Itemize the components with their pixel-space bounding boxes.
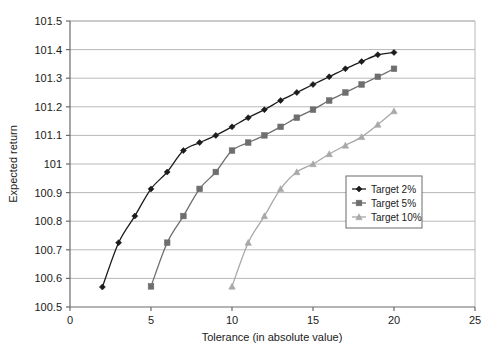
data-point-marker xyxy=(229,148,235,154)
x-axis-tick-label: 5 xyxy=(148,314,154,326)
y-axis-tick-label: 101 xyxy=(44,158,62,170)
y-axis-tick-label: 100.6 xyxy=(34,272,62,284)
data-point-marker xyxy=(391,66,397,72)
chart-container: 100.5100.6100.7100.8100.9101101.1101.210… xyxy=(0,0,502,358)
y-axis-tick-label: 100.8 xyxy=(34,215,62,227)
data-point-marker xyxy=(294,115,300,121)
y-axis-tick-label: 100.9 xyxy=(34,187,62,199)
legend-item-label: Target 2% xyxy=(371,184,416,195)
data-point-marker xyxy=(343,90,349,96)
legend-item-label: Target 5% xyxy=(371,198,416,209)
data-point-marker xyxy=(326,98,332,104)
y-axis-title: Expected return xyxy=(7,125,19,203)
y-axis-tick-label: 100.5 xyxy=(34,301,62,313)
chart-legend: Target 2%Target 5%Target 10% xyxy=(346,176,422,228)
data-point-marker xyxy=(245,140,251,146)
y-axis-tick-label: 101.2 xyxy=(34,101,62,113)
y-axis-tick-label: 101.4 xyxy=(34,44,62,56)
x-axis-tick-label: 10 xyxy=(226,314,238,326)
y-axis-tick-label: 101.3 xyxy=(34,72,62,84)
data-point-marker xyxy=(356,200,362,206)
x-axis-tick-label: 0 xyxy=(67,314,73,326)
data-point-marker xyxy=(359,82,365,88)
x-axis-title: Tolerance (in absolute value) xyxy=(202,331,343,343)
x-axis-tick-label: 20 xyxy=(388,314,400,326)
x-axis-tick-label: 15 xyxy=(307,314,319,326)
data-point-marker xyxy=(164,240,170,246)
y-axis-tick-label: 101.1 xyxy=(34,129,62,141)
data-point-marker xyxy=(148,284,154,290)
plot-background xyxy=(0,0,502,358)
data-point-marker xyxy=(197,186,203,192)
legend-item-label: Target 10% xyxy=(371,212,422,223)
expected-return-line-chart: 100.5100.6100.7100.8100.9101101.1101.210… xyxy=(0,0,502,358)
data-point-marker xyxy=(181,213,187,219)
y-axis-tick-label: 100.7 xyxy=(34,244,62,256)
x-axis-tick-label: 25 xyxy=(469,314,481,326)
y-axis-tick-label: 101.5 xyxy=(34,15,62,27)
data-point-marker xyxy=(213,169,219,175)
data-point-marker xyxy=(310,107,316,113)
data-point-marker xyxy=(375,74,381,80)
data-point-marker xyxy=(262,133,268,139)
data-point-marker xyxy=(278,124,284,130)
